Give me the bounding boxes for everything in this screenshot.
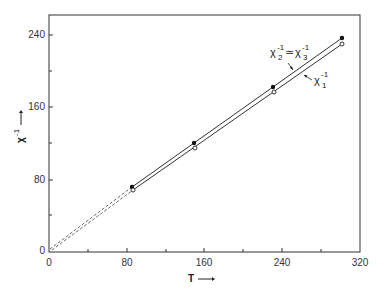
x-ticks — [88, 248, 321, 252]
upper-extrapolation-line — [50, 187, 132, 249]
lower-extrapolation-line — [52, 190, 133, 250]
anno-upper-chi2-sup: -1 — [277, 43, 285, 52]
anno-upper-chi2: χ — [270, 46, 276, 58]
anno-lower-chi1: χ — [314, 74, 320, 86]
data-point-filled — [340, 36, 344, 40]
anno-upper-approx: ≃ — [285, 46, 294, 58]
y-tick-label: 0 — [39, 245, 45, 256]
annotation-upper: χ -1 2 ≃ χ -1 3 — [270, 43, 310, 70]
y-axis-label: χ -1 — [12, 110, 26, 143]
anno-upper-chi2-sub: 2 — [278, 53, 283, 62]
plot-frame — [49, 15, 360, 252]
x-tick-label: 0 — [46, 257, 52, 268]
y-axis-label-sup: -1 — [12, 128, 21, 136]
anno-upper-chi3-sup: -1 — [302, 43, 310, 52]
arrow-head-icon — [212, 277, 215, 281]
x-tick-labels: 0 80 160 240 320 — [46, 257, 369, 268]
y-tick-label: 240 — [28, 29, 45, 40]
y-tick-label: 80 — [34, 174, 46, 185]
anno-upper-chi3-sub: 3 — [303, 53, 308, 62]
data-point-filled — [192, 141, 196, 145]
upper-fit-line — [132, 38, 342, 187]
annotation-lower: χ -1 1 — [304, 70, 329, 90]
x-tick-label: 320 — [352, 257, 369, 268]
anno-lower-chi1-sub: 1 — [322, 81, 327, 90]
lower-fit-line — [133, 44, 342, 190]
data-point-open — [272, 90, 276, 94]
anno-lower-chi1-sup: -1 — [321, 70, 329, 79]
x-axis-label-text: T — [188, 273, 194, 284]
y-ticks — [49, 35, 53, 215]
y-tick-label: 160 — [28, 101, 45, 112]
x-axis-label: T — [188, 273, 215, 284]
data-point-filled — [271, 85, 275, 89]
data-point-open — [340, 42, 344, 46]
data-point-open — [131, 188, 135, 192]
x-tick-label: 240 — [274, 257, 291, 268]
y-axis-label-text: χ — [15, 137, 26, 143]
x-tick-label: 160 — [196, 257, 213, 268]
y-tick-labels: 0 80 160 240 — [28, 29, 45, 256]
arrow-head-icon — [19, 110, 23, 113]
x-tick-label: 80 — [121, 257, 133, 268]
anno-upper-chi3: χ — [295, 46, 301, 58]
data-point-open — [193, 146, 197, 150]
chart: 0 80 160 240 320 0 80 160 240 T χ -1 — [0, 0, 384, 292]
